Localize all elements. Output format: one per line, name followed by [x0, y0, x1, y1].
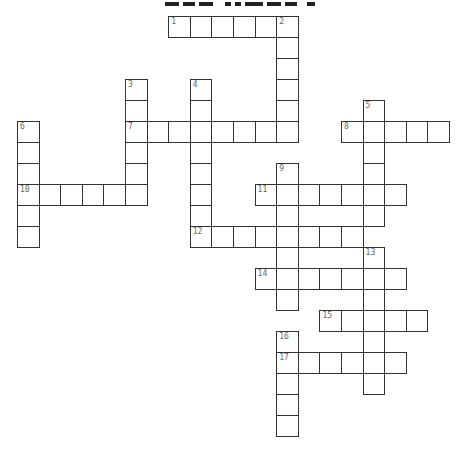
crossword-cell[interactable] — [255, 121, 278, 143]
crossword-cell[interactable] — [125, 100, 148, 122]
crossword-cell[interactable]: 5 — [363, 100, 386, 122]
crossword-cell[interactable] — [276, 247, 299, 269]
crossword-cell[interactable] — [276, 79, 299, 101]
crossword-cell[interactable] — [190, 16, 213, 38]
crossword-cell[interactable] — [276, 58, 299, 80]
crossword-cell[interactable] — [125, 163, 148, 185]
crossword-cell[interactable] — [17, 163, 40, 185]
crossword-cell[interactable] — [276, 268, 299, 290]
crossword-cell[interactable] — [190, 184, 213, 206]
crossword-cell[interactable] — [276, 37, 299, 59]
crossword-cell[interactable]: 6 — [17, 121, 40, 143]
crossword-cell[interactable]: 17 — [276, 352, 299, 374]
crossword-cell[interactable] — [276, 394, 299, 416]
crossword-cell[interactable] — [298, 268, 321, 290]
crossword-cell[interactable] — [276, 289, 299, 311]
clue-number: 7 — [128, 122, 133, 132]
crossword-cell[interactable] — [319, 268, 342, 290]
crossword-cell[interactable] — [190, 121, 213, 143]
crossword-cell[interactable] — [341, 226, 364, 248]
crossword-cell[interactable] — [190, 100, 213, 122]
crossword-cell[interactable] — [39, 184, 62, 206]
crossword-cell[interactable] — [233, 226, 256, 248]
crossword-cell[interactable] — [363, 121, 386, 143]
crossword-cell[interactable] — [147, 121, 170, 143]
crossword-cell[interactable] — [125, 142, 148, 164]
crossword-cell[interactable] — [17, 205, 40, 227]
crossword-cell[interactable] — [363, 184, 386, 206]
crossword-cell[interactable] — [276, 373, 299, 395]
crossword-cell[interactable] — [82, 184, 105, 206]
crossword-cell[interactable]: 14 — [255, 268, 278, 290]
crossword-cell[interactable] — [276, 184, 299, 206]
crossword-cell[interactable] — [255, 16, 278, 38]
crossword-cell[interactable]: 11 — [255, 184, 278, 206]
crossword-cell[interactable] — [341, 310, 364, 332]
crossword-cell[interactable] — [363, 310, 386, 332]
crossword-cell[interactable] — [319, 226, 342, 248]
crossword-cell[interactable] — [17, 226, 40, 248]
crossword-cell[interactable]: 3 — [125, 79, 148, 101]
crossword-cell[interactable] — [363, 268, 386, 290]
crossword-cell[interactable] — [276, 100, 299, 122]
crossword-cell[interactable]: 9 — [276, 163, 299, 185]
clue-number: 10 — [20, 185, 30, 195]
crossword-cell[interactable] — [427, 121, 450, 143]
crossword-cell[interactable] — [298, 184, 321, 206]
crossword-cell[interactable] — [103, 184, 126, 206]
crossword-cell[interactable] — [211, 226, 234, 248]
crossword-cell[interactable] — [363, 163, 386, 185]
crossword-cell[interactable] — [276, 415, 299, 437]
crossword-cell[interactable] — [319, 352, 342, 374]
crossword-cell[interactable] — [406, 121, 429, 143]
crossword-cell[interactable]: 2 — [276, 16, 299, 38]
crossword-cell[interactable]: 4 — [190, 79, 213, 101]
crossword-cell[interactable] — [125, 184, 148, 206]
clue-number: 12 — [193, 227, 203, 237]
crossword-cell[interactable]: 15 — [319, 310, 342, 332]
crossword-cell[interactable] — [363, 289, 386, 311]
crossword-cell[interactable] — [341, 268, 364, 290]
crossword-cell[interactable] — [363, 373, 386, 395]
crossword-cell[interactable] — [363, 331, 386, 353]
crossword-cell[interactable]: 12 — [190, 226, 213, 248]
crossword-cell[interactable] — [60, 184, 83, 206]
crossword-cell[interactable] — [363, 352, 386, 374]
crossword-cell[interactable] — [363, 142, 386, 164]
crossword-cell[interactable] — [190, 163, 213, 185]
crossword-cell[interactable] — [168, 121, 191, 143]
crossword-cell[interactable] — [384, 352, 407, 374]
crossword-cell[interactable] — [363, 205, 386, 227]
crossword-cell[interactable]: 1 — [168, 16, 191, 38]
crossword-cell[interactable] — [190, 142, 213, 164]
crossword-cell[interactable] — [298, 226, 321, 248]
crossword-cell[interactable] — [384, 121, 407, 143]
crossword-cell[interactable] — [384, 268, 407, 290]
crossword-cell[interactable]: 8 — [341, 121, 364, 143]
crossword-cell[interactable] — [341, 352, 364, 374]
crossword-cell[interactable]: 10 — [17, 184, 40, 206]
crossword-cell[interactable] — [255, 226, 278, 248]
crossword-cell[interactable] — [341, 184, 364, 206]
crossword-cell[interactable] — [233, 16, 256, 38]
crossword-cell[interactable] — [276, 205, 299, 227]
crossword-cell[interactable] — [406, 310, 429, 332]
crossword-cell[interactable]: 16 — [276, 331, 299, 353]
crossword-cell[interactable] — [211, 121, 234, 143]
crossword-cell[interactable] — [211, 16, 234, 38]
crossword-cell[interactable] — [190, 205, 213, 227]
crossword-cell[interactable] — [298, 352, 321, 374]
clue-number: 5 — [366, 101, 371, 111]
crossword-cell[interactable] — [384, 184, 407, 206]
crossword-cell[interactable] — [233, 121, 256, 143]
clue-number: 9 — [279, 164, 284, 174]
crossword-cell[interactable]: 7 — [125, 121, 148, 143]
crossword-cell[interactable] — [276, 121, 299, 143]
crossword-cell[interactable]: 13 — [363, 247, 386, 269]
clue-number: 1 — [171, 17, 176, 27]
crossword-cell[interactable] — [17, 142, 40, 164]
crossword-cell[interactable] — [384, 310, 407, 332]
crossword-grid: 1237412561089111314151617 — [0, 0, 469, 454]
crossword-cell[interactable] — [319, 184, 342, 206]
crossword-cell[interactable] — [276, 226, 299, 248]
